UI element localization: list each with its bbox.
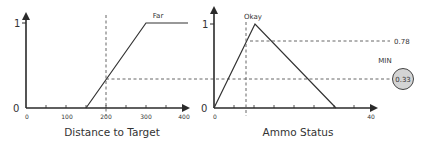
okay-degree-value: 0.78 — [394, 38, 410, 46]
okay-membership-curve — [214, 24, 336, 108]
fuzzy-membership-figure: 1 0 0 100 200 300 400 Far Distance to Ta… — [0, 0, 423, 145]
ammo-chart: 1 0 0 40 Okay 0.78 MIN 0.33 Ammo Status — [201, 10, 414, 138]
distance-chart: 1 0 0 100 200 300 400 Far Distance to Ta… — [13, 12, 190, 138]
distance-x-tick-100: 100 — [61, 113, 73, 120]
okay-set-label: Okay — [244, 13, 262, 21]
far-membership-curve — [86, 23, 188, 108]
ammo-y-label-0: 0 — [201, 103, 207, 114]
distance-x-tick-0: 0 — [25, 113, 29, 120]
ammo-y-label-1: 1 — [202, 19, 208, 30]
chart-canvas: 1 0 0 100 200 300 400 Far Distance to Ta… — [0, 0, 423, 145]
min-result-value: 0.33 — [395, 76, 411, 84]
ammo-x-title: Ammo Status — [263, 126, 334, 138]
distance-x-tick-300: 300 — [140, 113, 152, 120]
distance-y-label-1: 1 — [14, 18, 20, 29]
ammo-x-tick-40: 40 — [367, 113, 375, 120]
distance-x-tick-400: 400 — [178, 113, 190, 120]
min-operator-label: MIN — [378, 57, 391, 65]
distance-x-title: Distance to Target — [64, 126, 160, 138]
ammo-x-tick-0: 0 — [213, 113, 217, 120]
far-set-label: Far — [153, 12, 164, 20]
distance-y-label-0: 0 — [13, 103, 19, 114]
